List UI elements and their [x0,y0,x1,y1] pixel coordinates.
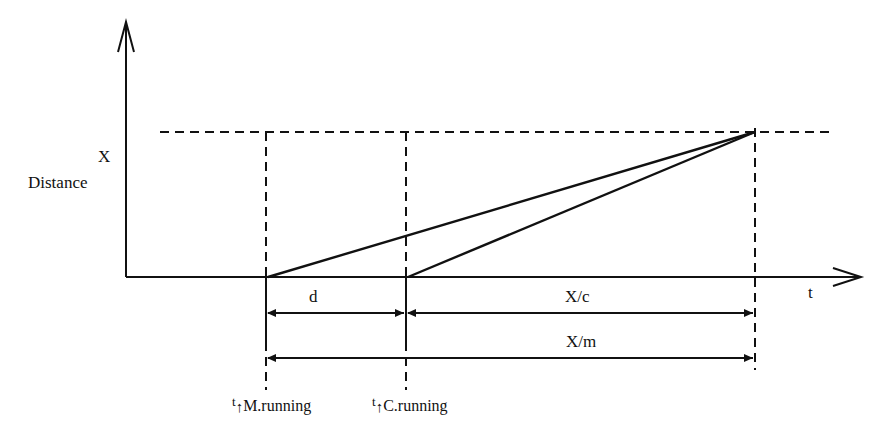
distance-axis [118,22,134,277]
x-over-c-label: X/c [565,288,590,305]
m-running-subscript: M.running [243,397,311,414]
m-running-time-label: t↑M.running [232,397,311,414]
y-marker-label: X [98,148,110,165]
y-axis-label: Distance [28,174,87,191]
up-arrow-icon: ↑ [376,399,384,415]
c-trajectory-line [408,132,755,277]
up-arrow-icon: ↑ [236,399,244,415]
x-axis-label: t [808,284,813,301]
c-running-time-label: t↑C.running [372,397,448,414]
d-label: d [309,288,318,305]
x-over-m-label: X/m [566,333,596,350]
m-trajectory-line [268,132,755,277]
c-running-subscript: C.running [383,397,447,414]
time-axis [126,268,861,286]
diagram-canvas [0,0,892,442]
